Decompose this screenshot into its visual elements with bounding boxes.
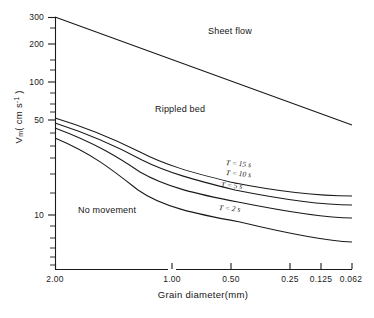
curve-label-t5: T = 5 s — [221, 180, 243, 191]
x-tick-label-1-00: 1.00 — [163, 274, 180, 284]
y-axis-minor-ticks — [50, 28, 55, 265]
x-axis-ticks — [56, 263, 353, 269]
y-axis-title-unit-close: ) — [13, 90, 24, 96]
chart-figure: 300 200 100 50 10 2.00 1.00 0.50 0.25 0.… — [0, 0, 374, 318]
region-label-no-movement: No movement — [78, 205, 136, 215]
y-axis-title: Vm( cm s-1 ) — [13, 124, 24, 144]
y-axis-major-ticks — [48, 18, 55, 216]
y-axis-title-var: V — [13, 137, 24, 144]
y-tick-label-300: 300 — [12, 12, 44, 22]
y-tick-label-10: 10 — [12, 210, 44, 220]
x-tick-label-0-25: 0.25 — [281, 274, 298, 284]
curve-t2 — [55, 138, 352, 242]
x-axis-title: Grain diameter(mm) — [158, 289, 248, 300]
region-label-sheet-flow: Sheet flow — [208, 26, 252, 36]
curve-t15 — [55, 118, 352, 196]
chart-plot-area — [0, 0, 374, 318]
y-axis-title-subscript: m — [17, 131, 24, 137]
curve-t10 — [55, 123, 352, 205]
y-tick-label-200: 200 — [12, 39, 44, 49]
x-tick-label-0-062: 0.062 — [340, 274, 362, 284]
y-tick-label-100: 100 — [12, 77, 44, 87]
x-tick-label-2-00: 2.00 — [46, 274, 63, 284]
region-label-rippled-bed: Rippled bed — [155, 104, 205, 114]
y-axis-title-unit-open: ( cm s — [13, 103, 24, 131]
x-tick-label-0-125: 0.125 — [310, 274, 332, 284]
x-tick-label-0-50: 0.50 — [222, 274, 239, 284]
y-axis-title-unit-exponent: -1 — [13, 97, 20, 103]
curve-label-t2: T = 2 s — [219, 203, 241, 214]
